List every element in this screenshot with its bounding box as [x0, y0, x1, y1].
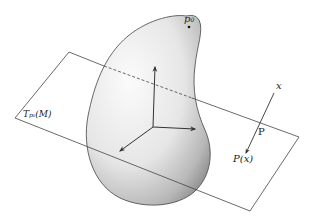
label-p0: p0 [184, 13, 194, 24]
label-tangent-plane-arg: (M) [35, 109, 51, 119]
point-p0-dot [188, 26, 191, 29]
label-x: x [276, 80, 282, 91]
projection-arrow [246, 93, 274, 153]
label-Px: P(x) [233, 153, 253, 164]
label-tangent-plane: Tp₀(M) [23, 109, 52, 119]
manifold-surface [86, 15, 210, 205]
label-P: P [258, 126, 265, 137]
label-p0-sub: 0 [190, 16, 194, 23]
